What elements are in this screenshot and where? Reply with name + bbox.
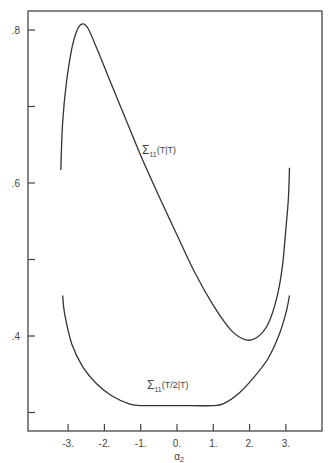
curves <box>61 24 290 406</box>
label-sigma11-T2-T: Σ11(T/2|T) <box>147 378 189 393</box>
curve-sigma11-T-T <box>61 24 290 340</box>
label-sigma11-T-T: Σ11(T|T) <box>142 143 176 158</box>
plot-frame <box>28 11 322 431</box>
x-tick-label: 1. <box>209 438 217 449</box>
curve-labels: Σ11(T|T)Σ11(T/2|T) <box>142 143 189 393</box>
y-tick-label: .8 <box>12 25 21 36</box>
y-tick-label: .6 <box>12 178 21 189</box>
x-tick-label: 2. <box>245 438 253 449</box>
x-axis-ticks: -3.-2.-1.0.1.2.3. <box>62 424 290 449</box>
y-tick-label: .4 <box>12 331 21 342</box>
x-tick-label: -3. <box>62 438 74 449</box>
y-axis-ticks: .4.6.8 <box>12 25 35 413</box>
x-axis-label: α2 <box>174 451 184 463</box>
x-tick-label: -1. <box>135 438 147 449</box>
x-tick-label: -2. <box>99 438 111 449</box>
x-tick-label: 0. <box>173 438 181 449</box>
line-chart: .4.6.8 -3.-2.-1.0.1.2.3. Σ11(T|T)Σ11(T/2… <box>0 0 334 463</box>
x-tick-label: 3. <box>282 438 290 449</box>
